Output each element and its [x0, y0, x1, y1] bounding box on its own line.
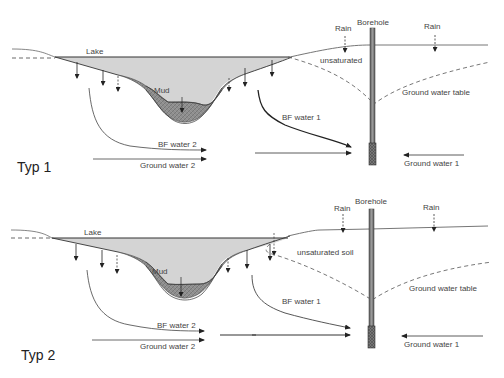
borehole-filter-screen	[369, 143, 376, 165]
right-land-surface	[288, 226, 488, 236]
label-rain-right: Rain	[424, 22, 440, 31]
label-unsaturated-soil: unsaturated soil	[297, 248, 354, 257]
label-rain-left: Rain	[335, 24, 351, 33]
left-bank-surface	[11, 230, 52, 238]
label-borehole: Borehole	[357, 18, 390, 27]
label-lake: Lake	[84, 228, 102, 237]
label-rain-left: Rain	[334, 204, 350, 213]
label-ground-water-1: Ground water 1	[404, 159, 460, 168]
label-ground-water-table: Ground water table	[402, 88, 471, 97]
label-ground-water-2: Ground water 2	[140, 342, 196, 351]
panel-typ2: Lake Mud Rain Rain Borehole unsaturated …	[11, 197, 492, 363]
label-bf-water-2: BF water 2	[157, 321, 196, 330]
label-unsaturated-soil: unsaturated	[320, 56, 362, 65]
label-bf-water-1: BF water 1	[282, 297, 321, 306]
panel-title-typ2: Typ 2	[21, 347, 55, 363]
label-rain-right: Rain	[423, 203, 439, 212]
label-mud: Mud	[154, 86, 170, 95]
panel-title-typ1: Typ 1	[17, 159, 51, 175]
label-ground-water-1: Ground water 1	[404, 340, 460, 349]
label-bf-water-1: BF water 1	[282, 113, 321, 122]
label-bf-water-2: BF water 2	[158, 140, 197, 149]
bank-filtration-diagram: Lake Mud Rain Rain Borehole unsaturated …	[0, 0, 504, 378]
label-ground-water-table: Ground water table	[409, 284, 478, 293]
label-ground-water-2: Ground water 2	[140, 161, 196, 170]
borehole-filter-screen	[368, 326, 375, 348]
label-mud: Mud	[152, 267, 168, 276]
label-lake: Lake	[86, 47, 104, 56]
left-bank-surface	[12, 49, 55, 57]
panel-typ1: Lake Mud Rain Rain Borehole unsaturated …	[12, 18, 490, 175]
label-borehole: Borehole	[355, 197, 388, 206]
